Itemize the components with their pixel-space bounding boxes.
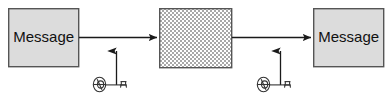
plaintext-out-label: Message xyxy=(318,28,379,45)
key-icon xyxy=(257,77,291,91)
ciphertext-shape xyxy=(160,9,232,68)
key-icon xyxy=(93,77,127,91)
node-plaintext-out: Message xyxy=(314,9,384,67)
node-ciphertext xyxy=(160,9,232,68)
encryption-flow-diagram: Message Message xyxy=(0,0,392,101)
node-plaintext-in: Message xyxy=(9,9,79,67)
diagram-canvas: Message Message xyxy=(0,0,392,101)
plaintext-in-label: Message xyxy=(13,28,74,45)
